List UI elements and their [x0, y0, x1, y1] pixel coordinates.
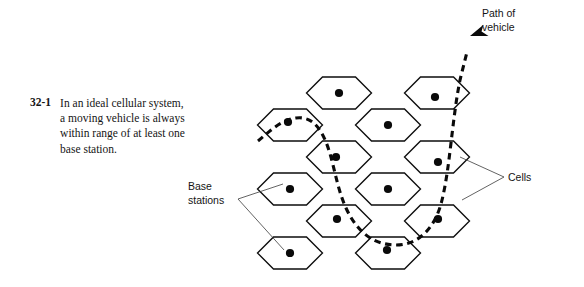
- base-station-dot: [383, 246, 391, 254]
- path-of-vehicle-label-line1: Path of: [482, 7, 515, 19]
- figure-page: 32-1 In an ideal cellular system, a movi…: [0, 0, 584, 287]
- base-station-dot: [384, 121, 392, 129]
- base-station-dot: [434, 158, 442, 166]
- base-station-dot: [384, 185, 392, 193]
- base-station-dot: [335, 89, 343, 97]
- cellular-network-diagram: Path of vehicle Cells Base stations: [0, 0, 584, 287]
- cells-leader-line: [460, 157, 504, 177]
- base-station-dot: [286, 249, 294, 257]
- hexagon-cell: [405, 141, 470, 173]
- base-stations-leader-line: [238, 199, 284, 250]
- base-station-dot: [333, 215, 341, 223]
- base-stations-label-line2: stations: [188, 194, 224, 206]
- cells-label: Cells: [508, 171, 531, 183]
- base-stations-label-line1: Base: [188, 180, 212, 192]
- path-of-vehicle-label-line2: vehicle: [482, 21, 515, 33]
- hexagon-cell-grid: [258, 77, 470, 269]
- cells-leader-line: [462, 177, 504, 200]
- base-station-dot: [431, 93, 439, 101]
- cells-leader-lines: [460, 157, 504, 200]
- base-station-dot: [286, 185, 294, 193]
